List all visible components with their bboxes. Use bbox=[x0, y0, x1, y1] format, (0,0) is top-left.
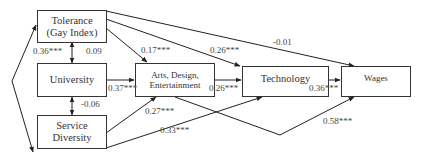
arrow-tolerance-service bbox=[12, 25, 36, 152]
coef-tolerance-wages: -0.01 bbox=[273, 37, 292, 47]
node-technology-label: Technology bbox=[261, 73, 310, 85]
coef-arts-wages: 0.58*** bbox=[323, 116, 352, 126]
coef-tolerance-arts: 0.17*** bbox=[141, 45, 170, 55]
arrow-service-technology bbox=[106, 97, 262, 148]
coef-tolerance-service: 0.36*** bbox=[33, 46, 62, 56]
node-service-diversity: Service Diversity bbox=[37, 115, 107, 149]
node-tolerance-line1: Tolerance bbox=[51, 15, 92, 27]
node-arts-line1: Arts, Design, bbox=[151, 70, 199, 80]
coef-service-arts: 0.27*** bbox=[145, 106, 174, 116]
node-tolerance-line2: (Gay Index) bbox=[46, 27, 97, 39]
coef-university-service: -0.06 bbox=[81, 99, 100, 109]
node-university-label: University bbox=[50, 74, 94, 86]
coef-arts-technology: 0.26*** bbox=[209, 83, 238, 93]
arrow-tolerance-wages bbox=[106, 11, 354, 66]
coef-university-arts: 0.37*** bbox=[108, 83, 137, 93]
coef-service-technology: 0.33*** bbox=[160, 125, 189, 135]
node-service-line2: Diversity bbox=[52, 132, 91, 144]
node-university: University bbox=[37, 63, 107, 97]
coef-tolerance-university: 0.09 bbox=[86, 46, 102, 56]
node-arts-line2: Entertainment bbox=[150, 80, 201, 90]
node-wages-label: Wages bbox=[364, 73, 388, 83]
node-arts: Arts, Design, Entertainment bbox=[135, 63, 215, 97]
coef-tolerance-technology: 0.26*** bbox=[210, 45, 239, 55]
coef-technology-wages: 0.36*** bbox=[309, 83, 338, 93]
node-service-line1: Service bbox=[56, 120, 88, 132]
node-tolerance: Tolerance (Gay Index) bbox=[37, 10, 107, 43]
node-wages: Wages bbox=[341, 66, 411, 97]
